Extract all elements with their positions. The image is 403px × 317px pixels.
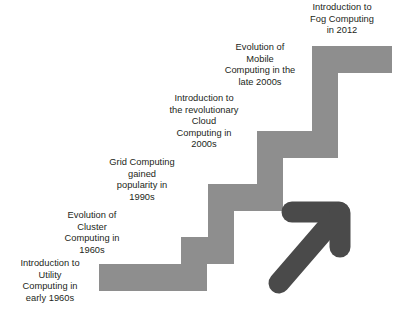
arrow-shaft bbox=[279, 217, 336, 283]
step-label-cluster: Evolution of Cluster Computing in 1960s bbox=[44, 210, 140, 256]
step-label-fog: Introduction to Fog Computing in 2012 bbox=[288, 2, 396, 37]
step-label-mobile: Evolution of Mobile Computing in the lat… bbox=[206, 42, 314, 88]
arrow-glyph bbox=[279, 212, 340, 283]
evolution-staircase-figure: Introduction to Utility Computing in ear… bbox=[0, 0, 403, 317]
step-label-cloud: Introduction to the revolutionary Cloud … bbox=[152, 93, 256, 151]
step-label-utility: Introduction to Utility Computing in ear… bbox=[2, 258, 98, 304]
step-label-grid: Grid Computing gained popularity in 1990… bbox=[92, 157, 192, 203]
